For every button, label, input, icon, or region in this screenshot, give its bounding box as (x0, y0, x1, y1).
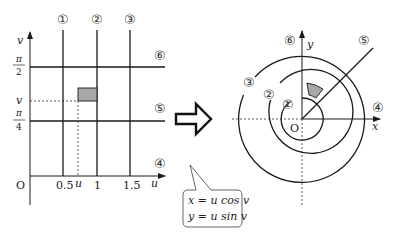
y-axis-label: y (306, 38, 314, 51)
shaded-area-image (307, 83, 323, 98)
label-line-5: ⑤ (358, 33, 370, 48)
v-axis-label: v (17, 34, 24, 47)
shaded-area-element (78, 88, 97, 101)
label-line-2: ② (91, 12, 103, 27)
label-line-5: ⑤ (154, 101, 166, 116)
tick-pi-4-num: π (15, 108, 23, 118)
label-line-6: ⑥ (154, 48, 166, 63)
tick-pi-4-den: 4 (16, 122, 22, 132)
tick-1.5: 1.5 (123, 179, 141, 192)
label-line-1: ① (282, 97, 294, 112)
label-line-6: ⑥ (284, 33, 296, 48)
label-line-1: ① (57, 12, 69, 27)
v-point-label: v (16, 94, 23, 107)
label-line-3: ③ (124, 12, 136, 27)
tick-u: u (75, 177, 82, 190)
tick-0.5: 0.5 (56, 179, 74, 192)
u-axis-label: u (151, 177, 158, 190)
label-line-4: ④ (372, 100, 384, 115)
tick-1: 1 (94, 179, 101, 192)
label-line-3: ③ (243, 75, 255, 90)
origin-label: O (290, 122, 299, 135)
coordinate-transform-diagram: ① ② ③ ⑥ ⑤ ④ v π 2 v π 4 O 0.5 u 1 1.5 u … (0, 0, 393, 233)
xy-plane: ⑥ y ⑤ ③ ② ① ④ O x (232, 31, 384, 206)
right-arrow-icon (176, 104, 211, 134)
label-line-4: ④ (154, 156, 166, 171)
uv-plane: ① ② ③ ⑥ ⑤ ④ v π 2 v π 4 O 0.5 u 1 1.5 u (13, 12, 166, 205)
equation-x: x = u cos v (188, 194, 250, 207)
origin-label: O (16, 179, 25, 192)
ray-5-v-pi-4 (302, 48, 373, 119)
tick-pi-2-den: 2 (16, 67, 22, 77)
tick-pi-2-num: π (15, 54, 23, 64)
label-line-2: ② (263, 87, 275, 102)
x-axis-label: x (372, 120, 379, 133)
equation-y: y = u sin v (187, 210, 248, 223)
